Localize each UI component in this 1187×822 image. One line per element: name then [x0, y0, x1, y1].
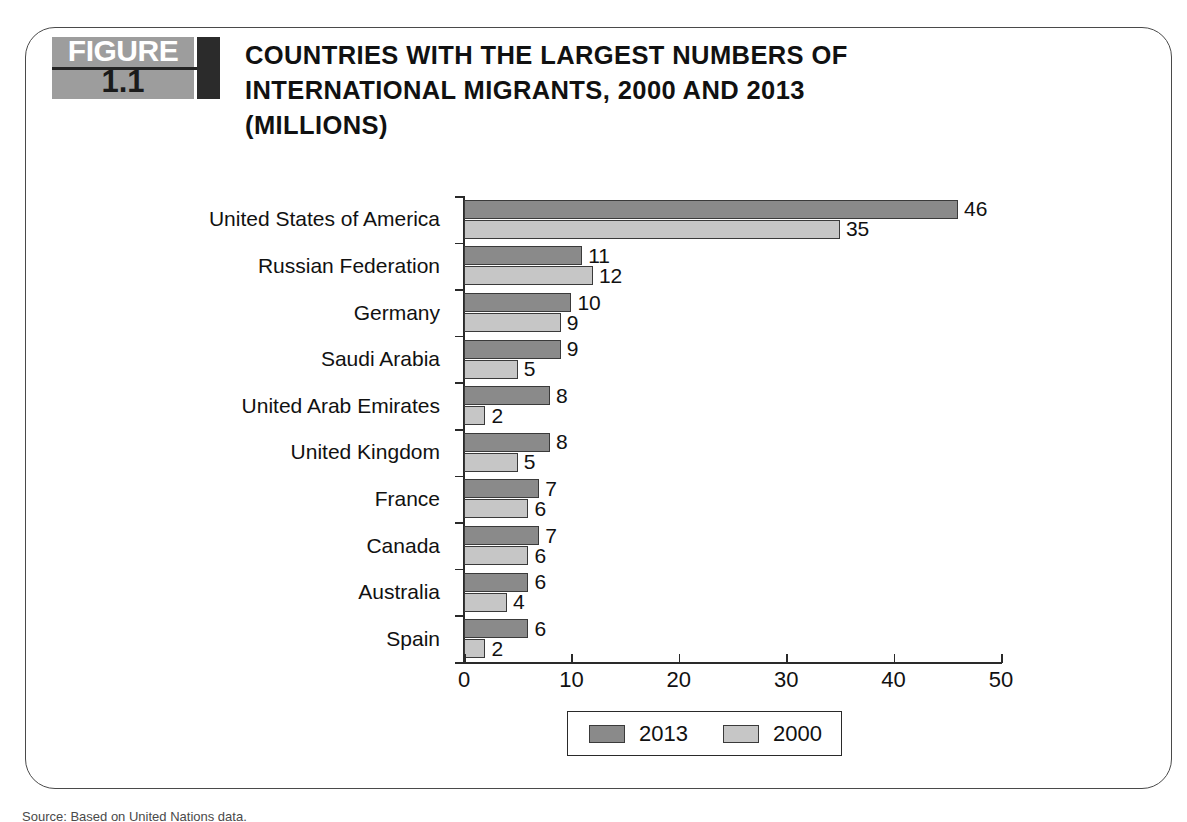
y-axis-tick	[455, 243, 464, 245]
y-axis-tick	[455, 336, 464, 338]
bar-2013-australia	[464, 573, 528, 592]
bar-2000-russian-federation	[464, 266, 593, 285]
legend: 2013 2000	[567, 711, 842, 756]
bar-value-label: 12	[599, 265, 622, 286]
bar-value-label: 7	[545, 478, 557, 499]
category-label: United Kingdom	[120, 441, 440, 462]
bar-2000-spain	[464, 639, 485, 658]
bar-value-label: 2	[491, 405, 503, 426]
bar-value-label: 9	[567, 338, 579, 359]
bar-2000-united-arab-emirates	[464, 406, 485, 425]
x-axis-tick	[464, 654, 466, 663]
x-axis-tick	[786, 654, 788, 663]
bar-2013-united-kingdom	[464, 433, 550, 452]
category-label: Spain	[120, 628, 440, 649]
bar-value-label: 5	[524, 358, 536, 379]
category-label: France	[120, 488, 440, 509]
bar-value-label: 6	[534, 498, 546, 519]
bar-2000-france	[464, 499, 528, 518]
bar-2013-france	[464, 479, 539, 498]
y-axis-tick	[455, 615, 464, 617]
x-axis-tick-label: 40	[872, 668, 916, 692]
bar-2000-germany	[464, 313, 561, 332]
category-label: United States of America	[120, 208, 440, 229]
y-axis-tick	[455, 289, 464, 291]
bar-value-label: 6	[534, 571, 546, 592]
x-axis-tick-label: 30	[764, 668, 808, 692]
legend-label-2013: 2013	[639, 722, 688, 746]
bar-2000-australia	[464, 593, 507, 612]
bar-value-label: 11	[588, 245, 610, 266]
bar-value-label: 46	[964, 198, 987, 219]
x-axis-tick-label: 50	[979, 668, 1023, 692]
bar-2013-germany	[464, 293, 571, 312]
bar-value-label: 10	[577, 292, 600, 313]
bar-value-label: 4	[513, 591, 525, 612]
bar-2013-russian-federation	[464, 246, 582, 265]
category-label: Canada	[120, 535, 440, 556]
category-label: Germany	[120, 302, 440, 323]
x-axis-tick	[679, 654, 681, 663]
bar-2000-united-states-of-america	[464, 220, 840, 239]
bar-value-label: 6	[534, 545, 546, 566]
bar-2013-saudi-arabia	[464, 340, 561, 359]
bar-value-label: 9	[567, 312, 579, 333]
bar-value-label: 6	[534, 618, 546, 639]
y-axis-tick	[455, 522, 464, 524]
x-axis-tick-label: 0	[442, 668, 486, 692]
bar-2013-spain	[464, 619, 528, 638]
x-axis-tick	[1001, 654, 1003, 663]
y-axis-tick	[455, 662, 464, 664]
x-axis-tick	[894, 654, 896, 663]
legend-swatch-2013	[589, 725, 625, 743]
category-label: Australia	[120, 581, 440, 602]
bar-2013-united-states-of-america	[464, 200, 958, 219]
category-label: Russian Federation	[120, 255, 440, 276]
source-note: Source: Based on United Nations data.	[22, 809, 247, 822]
category-label: Saudi Arabia	[120, 348, 440, 369]
y-axis-tick	[455, 569, 464, 571]
x-axis	[464, 662, 1002, 664]
bar-value-label: 2	[491, 638, 503, 659]
bar-value-label: 8	[556, 431, 568, 452]
bar-value-label: 7	[545, 525, 557, 546]
y-axis-tick	[455, 476, 464, 478]
bar-value-label: 8	[556, 385, 568, 406]
y-axis-tick	[455, 196, 464, 198]
bar-2000-united-kingdom	[464, 453, 518, 472]
bar-2000-canada	[464, 546, 528, 565]
x-axis-tick	[571, 654, 573, 663]
bar-value-label: 35	[846, 218, 869, 239]
bar-2013-canada	[464, 526, 539, 545]
y-axis-tick	[455, 429, 464, 431]
bar-chart: United States of AmericaRussian Federati…	[0, 0, 1187, 822]
bar-value-label: 5	[524, 451, 536, 472]
legend-label-2000: 2000	[773, 722, 822, 746]
legend-swatch-2000	[723, 725, 759, 743]
bar-2000-saudi-arabia	[464, 360, 518, 379]
x-axis-tick-label: 10	[549, 668, 593, 692]
bar-2013-united-arab-emirates	[464, 386, 550, 405]
x-axis-tick-label: 20	[657, 668, 701, 692]
category-label: United Arab Emirates	[120, 395, 440, 416]
y-axis-tick	[455, 382, 464, 384]
